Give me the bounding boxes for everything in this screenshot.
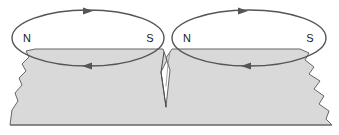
magnetic-material-block	[10, 49, 332, 125]
right-domain-top-arrowhead	[238, 8, 248, 15]
left-domain-north-label: N	[23, 32, 31, 44]
magnetic-domains-figure: N S N S	[0, 0, 339, 135]
left-domain-top-arrowhead	[83, 8, 93, 15]
diagram-canvas: N S N S	[0, 0, 339, 135]
right-domain-north-label: N	[183, 32, 191, 44]
left-domain-south-label: S	[146, 32, 153, 44]
material-block-shape	[10, 49, 332, 125]
right-domain-south-label: S	[306, 32, 313, 44]
